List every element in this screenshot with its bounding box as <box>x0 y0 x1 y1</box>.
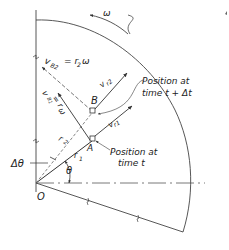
svg-text:v: v <box>40 90 50 98</box>
svg-text:2: 2 <box>77 61 81 68</box>
lower-radius-line <box>36 183 183 232</box>
position-now-label-line1: Position at <box>110 147 158 157</box>
position-later-label-line1: Position at <box>142 76 190 86</box>
kinematics-diagram: ω v B2 = r 2 ω v B1 = r ω v r2 v r1 <box>0 0 229 250</box>
svg-text:B2: B2 <box>50 61 60 70</box>
vb2-label: v B2 = r 2 ω <box>43 55 90 70</box>
break-mark-icon <box>137 215 139 222</box>
leader-line-a <box>96 141 110 150</box>
svg-text:2: 2 <box>63 138 70 146</box>
vr1-label: v r1 <box>107 119 121 130</box>
vr2-velocity-arrow <box>95 73 127 109</box>
delta-theta-label: Δθ <box>10 158 24 169</box>
point-b-label: B <box>91 95 98 106</box>
origin-label: O <box>37 191 45 202</box>
position-later-label-line2: time t + Δt <box>142 88 192 98</box>
radius-line-ob-dashed <box>36 113 92 183</box>
break-mark-icon <box>33 55 39 59</box>
omega-label: ω <box>103 8 111 18</box>
break-mark-icon <box>33 139 39 143</box>
svg-text:ω: ω <box>82 56 90 66</box>
point-b-marker <box>90 108 95 113</box>
r1-label: r 1 <box>74 151 83 162</box>
point-a-marker <box>90 136 95 141</box>
position-now-label-line2: time t <box>118 158 145 168</box>
omega-rotation-arrow <box>128 15 133 34</box>
vr2-label: v r2 <box>98 77 114 89</box>
edge-mark-icon <box>225 11 227 15</box>
break-mark-icon <box>87 198 89 205</box>
radius-line-oa <box>36 141 92 183</box>
svg-text:1: 1 <box>79 155 83 162</box>
vb1-label: v B1 = r ω <box>40 90 68 117</box>
point-a-label: A <box>86 143 93 153</box>
vb2-velocity-arrow <box>42 67 92 111</box>
theta-label: θ <box>66 165 72 176</box>
